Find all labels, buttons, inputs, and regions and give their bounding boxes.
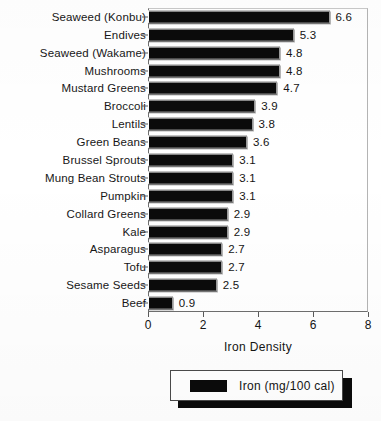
bar-fill — [148, 279, 217, 292]
bar-row: Brussel Sprouts3.1 — [0, 151, 381, 169]
bar-fill — [148, 207, 228, 220]
bar-row: Seaweed (Konbu)6.6 — [0, 8, 381, 26]
bar-row: Mustard Greens4.7 — [0, 80, 381, 98]
bar — [148, 64, 280, 77]
bar — [148, 261, 222, 274]
legend-swatch-iron — [189, 379, 227, 392]
bar-value-label: 2.5 — [223, 279, 240, 291]
category-label: Seaweed (Konbu) — [52, 11, 146, 23]
bar-row: Mung Bean Strouts3.1 — [0, 169, 381, 187]
bar-fill — [148, 171, 233, 184]
bar-row: Mushrooms4.8 — [0, 62, 381, 80]
bar-fill — [148, 118, 253, 131]
category-label: Seaweed (Wakame) — [40, 47, 146, 59]
bar-fill — [148, 64, 280, 77]
bar-value-label: 5.3 — [300, 29, 317, 41]
bar — [148, 10, 330, 23]
bar-row: Collard Greens2.9 — [0, 205, 381, 223]
bar — [148, 225, 228, 238]
bar-value-label: 4.7 — [283, 82, 300, 94]
bar-row: Tofu2.7 — [0, 258, 381, 276]
bar-row: Seaweed (Wakame)4.8 — [0, 44, 381, 62]
bar-row: Kale2.9 — [0, 223, 381, 241]
bar-fill — [148, 297, 173, 310]
bar-value-label: 3.1 — [239, 190, 256, 202]
category-label: Asparagus — [90, 243, 146, 255]
bar-row: Lentils3.8 — [0, 115, 381, 133]
bar — [148, 28, 294, 41]
bar-value-label: 3.6 — [253, 136, 270, 148]
bar-fill — [148, 243, 222, 256]
bar — [148, 100, 255, 113]
bar-value-label: 6.6 — [336, 11, 353, 23]
bar-fill — [148, 82, 277, 95]
bar — [148, 207, 228, 220]
bar-row: Beef0.9 — [0, 294, 381, 312]
bar-value-label: 3.1 — [239, 154, 256, 166]
x-axis-tick-label: 0 — [145, 318, 152, 332]
x-axis: 02468 — [0, 312, 381, 338]
x-axis-tick — [368, 312, 369, 317]
bar-fill — [148, 100, 255, 113]
bar-fill — [148, 28, 294, 41]
bar — [148, 153, 233, 166]
category-label: Collard Greens — [67, 208, 146, 220]
bar — [148, 82, 277, 95]
bar — [148, 46, 280, 59]
bar — [148, 297, 173, 310]
bar — [148, 279, 217, 292]
bar-row: Asparagus2.7 — [0, 240, 381, 258]
bar — [148, 189, 233, 202]
category-label: Mustard Greens — [61, 82, 146, 94]
bar-row: Sesame Seeds2.5 — [0, 276, 381, 294]
category-label: Endives — [104, 29, 146, 41]
category-label: Lentils — [112, 118, 146, 130]
bar-fill — [148, 189, 233, 202]
bar-value-label: 2.7 — [228, 261, 245, 273]
legend-label-iron: Iron (mg/100 cal) — [239, 379, 335, 393]
bar-value-label: 2.9 — [234, 226, 251, 238]
category-label: Green Beans — [77, 136, 146, 148]
x-axis-tick-label: 8 — [365, 318, 372, 332]
category-label: Brussel Sprouts — [63, 154, 146, 166]
bar-rows: Seaweed (Konbu)6.6Endives5.3Seaweed (Wak… — [0, 8, 381, 312]
bar-fill — [148, 261, 222, 274]
category-label: Mushrooms — [85, 65, 146, 77]
bar — [148, 171, 233, 184]
x-axis-tick-label: 4 — [255, 318, 262, 332]
bar-value-label: 4.8 — [286, 47, 303, 59]
bar-value-label: 2.7 — [228, 243, 245, 255]
x-axis-tick — [313, 312, 314, 317]
bar-row: Endives5.3 — [0, 26, 381, 44]
bar-chart: Seaweed (Konbu)6.6Endives5.3Seaweed (Wak… — [0, 0, 381, 421]
category-label: Broccoli — [104, 100, 146, 112]
category-label: Pumpkin — [100, 190, 146, 202]
x-axis-title: Iron Density — [148, 340, 368, 354]
bar-value-label: 0.9 — [179, 297, 196, 309]
category-label: Mung Bean Strouts — [45, 172, 146, 184]
bar — [148, 243, 222, 256]
x-axis-tick-label: 6 — [310, 318, 317, 332]
bar-fill — [148, 136, 247, 149]
bar-value-label: 3.9 — [261, 100, 278, 112]
x-axis-tick — [203, 312, 204, 317]
x-axis-tick — [148, 312, 149, 317]
bar-fill — [148, 225, 228, 238]
bar-row: Green Beans3.6 — [0, 133, 381, 151]
category-label: Sesame Seeds — [66, 279, 146, 291]
x-axis-tick-label: 2 — [200, 318, 207, 332]
bar-value-label: 3.1 — [239, 172, 256, 184]
bar-value-label: 4.8 — [286, 65, 303, 77]
bar — [148, 136, 247, 149]
x-axis-tick — [258, 312, 259, 317]
bar-row: Broccoli3.9 — [0, 97, 381, 115]
legend: Iron (mg/100 cal) — [170, 370, 343, 401]
bar-value-label: 2.9 — [234, 208, 251, 220]
bar-row: Pumpkin3.1 — [0, 187, 381, 205]
bar-fill — [148, 153, 233, 166]
bar — [148, 118, 253, 131]
bar-value-label: 3.8 — [259, 118, 276, 130]
bar-fill — [148, 10, 330, 23]
bar-fill — [148, 46, 280, 59]
